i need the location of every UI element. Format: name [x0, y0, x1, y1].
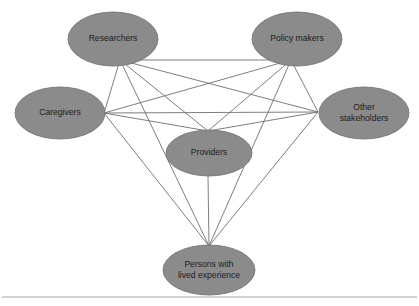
- edge-caregivers-to-providers: [104, 113, 208, 131]
- edge-policy-makers-to-other-stakeholders: [291, 60, 318, 112]
- edge-caregivers-to-other-stakeholders: [104, 112, 318, 113]
- node-caregivers[interactable]: Caregivers: [15, 87, 105, 139]
- node-label-policy-makers: Policy makers: [270, 33, 323, 43]
- stakeholder-network-diagram: ResearchersPolicy makersCaregiversOthers…: [0, 0, 419, 306]
- edge-researchers-to-providers: [120, 60, 208, 131]
- edge-policy-makers-to-caregivers: [104, 60, 291, 113]
- node-label-researchers: Researchers: [89, 33, 138, 43]
- diagram-canvas: ResearchersPolicy makersCaregiversOthers…: [0, 0, 419, 306]
- node-label-other-stakeholders: Other: [353, 102, 375, 112]
- node-label-providers: Providers: [191, 147, 227, 157]
- node-label-persons-with-lived-experience: Persons with: [184, 259, 233, 269]
- node-label-persons-with-lived-experience: lived experience: [178, 270, 240, 280]
- node-persons-with-lived-experience[interactable]: Persons withlived experience: [163, 245, 255, 295]
- node-providers[interactable]: Providers: [166, 130, 252, 176]
- node-researchers[interactable]: Researchers: [68, 12, 158, 66]
- node-label-caregivers: Caregivers: [39, 107, 81, 117]
- edge-other-stakeholders-to-providers: [208, 112, 318, 131]
- node-label-other-stakeholders: stakeholders: [340, 113, 389, 123]
- edge-researchers-to-caregivers: [104, 60, 120, 113]
- nodes-layer: ResearchersPolicy makersCaregiversOthers…: [15, 12, 409, 295]
- node-other-stakeholders[interactable]: Otherstakeholders: [319, 87, 409, 139]
- edge-providers-to-persons-with-lived-experience: [208, 176, 209, 246]
- node-policy-makers[interactable]: Policy makers: [252, 12, 342, 66]
- edge-researchers-to-other-stakeholders: [120, 60, 318, 112]
- edge-policy-makers-to-providers: [208, 60, 291, 131]
